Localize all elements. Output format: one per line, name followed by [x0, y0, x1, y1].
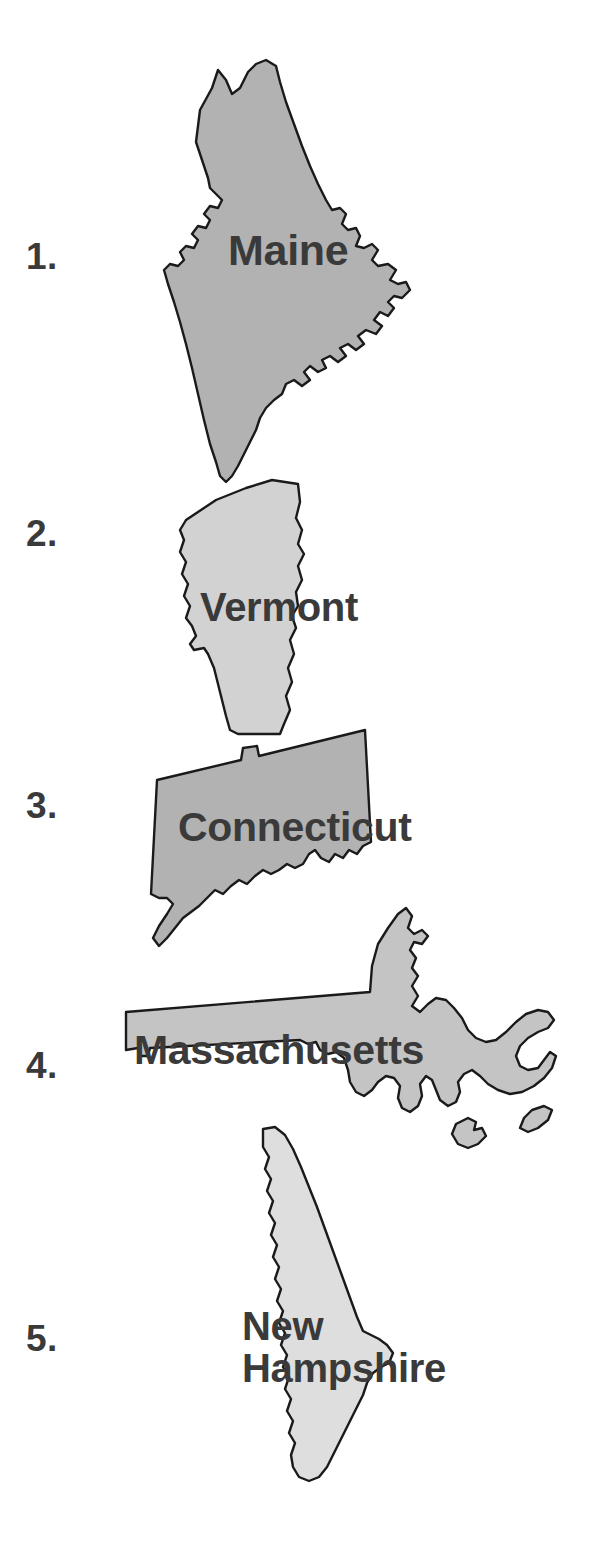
new-hampshire-label-line2: Hampshire [242, 1347, 502, 1389]
vermont-label-text: Vermont [200, 585, 358, 629]
connecticut-label-text: Connecticut [178, 804, 412, 850]
maine-label-text: Maine [228, 226, 348, 274]
list-number-5: 5. [26, 1320, 96, 1357]
list-number-4: 4. [26, 1047, 96, 1084]
massachusetts-label-text: Massachusetts [134, 1027, 424, 1073]
list-number-2: 2. [26, 515, 96, 552]
worksheet-page: 1. Maine 2. Vermont 3. Connecticut 4. [0, 0, 597, 1565]
list-number-1: 1. [26, 238, 96, 275]
vermont-state-label: Vermont [200, 586, 358, 628]
massachusetts-state-label: Massachusetts [134, 1029, 424, 1072]
new-hampshire-label-line1: New [242, 1304, 323, 1348]
list-number-3: 3. [26, 787, 96, 824]
maine-state-label: Maine [228, 228, 348, 274]
connecticut-state-label: Connecticut [178, 806, 412, 849]
new-hampshire-state-label: New Hampshire [242, 1305, 502, 1390]
